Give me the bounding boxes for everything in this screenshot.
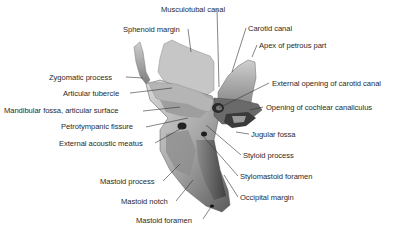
label-apex-petrous: Apex of petrous part xyxy=(259,41,326,50)
label-external-acoustic-meatus: External acoustic meatus xyxy=(59,139,143,148)
label-zygomatic-process: Zygomatic process xyxy=(49,73,112,82)
temporal-bone-illustration xyxy=(0,0,397,230)
label-sphenoid-margin: Sphenoid margin xyxy=(123,25,180,34)
label-petrotympanic-fissure: Petrotympanic fissure xyxy=(61,122,133,131)
label-carotid-canal: Carotid canal xyxy=(248,24,292,33)
label-mastoid-foramen: Mastoid foramen xyxy=(136,216,192,225)
anatomy-figure: Musculotubal canal Sphenoid margin Carot… xyxy=(0,0,397,230)
label-stylomastoid-foramen: Stylomastoid foramen xyxy=(240,172,312,181)
label-cochlear-canaliculus: Opening of cochlear canaliculus xyxy=(266,103,372,112)
label-styloid-process: Styloid process xyxy=(243,151,294,160)
label-jugular-fossa: Jugular fossa xyxy=(251,130,296,139)
label-mastoid-process: Mastoid process xyxy=(100,177,155,186)
label-mandibular-fossa: Mandibular fossa, articular surface xyxy=(4,106,118,115)
label-occipital-margin: Occipital margin xyxy=(240,193,294,202)
label-articular-tubercle: Articular tubercle xyxy=(63,89,119,98)
label-mastoid-notch: Mastoid notch xyxy=(121,197,168,206)
label-ext-opening-carotid: External opening of carotid canal xyxy=(272,79,381,88)
label-musculotubal-canal: Musculotubal canal xyxy=(161,5,225,14)
